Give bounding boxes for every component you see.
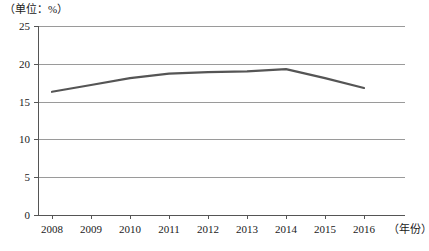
- x-tick-label: 2016: [343, 224, 385, 235]
- axis-lines: [38, 26, 405, 216]
- x-tick-label: 2015: [304, 224, 346, 235]
- line-chart: （单位：%） 2520151050 2008200920102011201220…: [0, 0, 429, 251]
- x-tick-label: 2014: [265, 224, 307, 235]
- x-tick-label: 2009: [70, 224, 112, 235]
- x-tick-label: 2012: [187, 224, 229, 235]
- y-tick-label: 20: [0, 59, 30, 70]
- x-axis-title: （年份）: [388, 224, 429, 235]
- gridlines: [38, 27, 405, 178]
- y-tick-label: 10: [0, 134, 30, 145]
- y-tick-label: 0: [0, 210, 30, 221]
- data-series-line: [52, 69, 364, 92]
- y-tick-label: 25: [0, 21, 30, 32]
- series-line: [52, 69, 364, 92]
- plot-canvas: [0, 0, 429, 251]
- y-tick-label: 15: [0, 97, 30, 108]
- y-tick-label: 5: [0, 172, 30, 183]
- x-tick-label: 2010: [109, 224, 151, 235]
- x-tick-label: 2011: [148, 224, 190, 235]
- x-tick-label: 2013: [226, 224, 268, 235]
- tick-marks: [34, 27, 365, 220]
- x-tick-label: 2008: [31, 224, 73, 235]
